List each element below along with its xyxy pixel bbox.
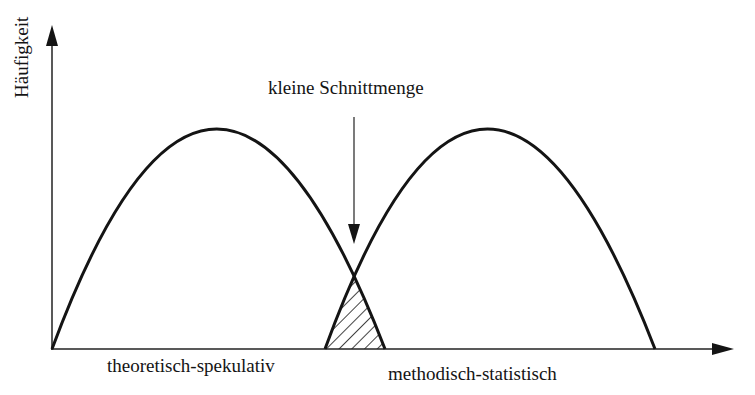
annotation-arrow-head-icon [348,224,360,244]
annotation-label: kleine Schnittmenge [268,78,424,97]
y-axis-arrow-icon [46,25,58,46]
diagram-graphics [0,0,755,395]
curve-label-methodisch-statistisch: methodisch-statistisch [388,364,557,383]
y-axis-label: Häufigkeit [12,17,31,98]
curve-theoretisch-spekulativ [52,129,385,349]
x-axis-arrow-icon [712,343,734,355]
diagram-canvas: Häufigkeit kleine Schnittmenge theoretis… [0,0,755,395]
curve-label-theoretisch-spekulativ: theoretisch-spekulativ [107,356,275,375]
curve-methodisch-statistisch [325,129,655,349]
